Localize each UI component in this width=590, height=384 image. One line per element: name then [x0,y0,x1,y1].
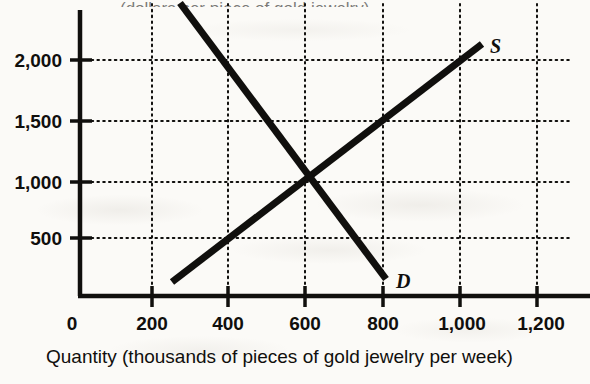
supply-curve [172,44,482,282]
x-axis-title: Quantity (thousands of pieces of gold je… [46,346,513,367]
x-tick-label-800: 800 [367,313,399,334]
figure-container: (dollars per piece of gold jewelry) [0,0,590,384]
origin-label: 0 [67,313,78,334]
x-tick-label-1200: 1,200 [517,313,565,334]
y-tick-label-500: 500 [30,228,62,249]
x-tick-label-400: 400 [212,313,244,334]
clipped-title-label: (dollars per piece of gold jewelry) [120,0,369,18]
y-tick-label-1000: 1,000 [14,172,62,193]
x-tick-label-1000: 1,000 [438,313,486,334]
curves [172,3,482,282]
clipped-title-text: (dollars per piece of gold jewelry) [120,0,369,18]
y-tick-label-1500: 1,500 [14,111,62,132]
x-tick-label-200: 200 [136,313,168,334]
axes [78,10,590,296]
x-tick-label-600: 600 [289,313,321,334]
supply-demand-chart: (dollars per piece of gold jewelry) [0,0,590,384]
demand-curve-label: D [395,270,410,292]
supply-curve-label: S [490,35,501,57]
y-tick-label-2000: 2,000 [14,50,62,71]
